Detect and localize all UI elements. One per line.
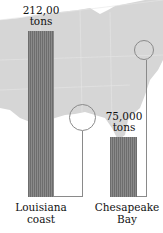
value-label-chesapeake: 75,000 tons — [98, 111, 150, 133]
value-label-chesapeake-unit: tons — [98, 122, 150, 133]
bar-louisiana-coast — [28, 31, 54, 197]
baseline-right — [137, 196, 146, 197]
value-label-louisiana: 212,00 tons — [16, 5, 66, 27]
category-louisiana-line1: Louisiana — [10, 201, 72, 213]
category-chesapeake-line1: Chesapeake — [92, 201, 162, 213]
category-louisiana-line2: coast — [10, 213, 72, 225]
category-label-chesapeake: Chesapeake Bay — [92, 201, 162, 225]
chart-root: 212,00 tons 75,000 tons Louisiana coast … — [0, 0, 163, 233]
category-chesapeake-line2: Bay — [92, 213, 162, 225]
chesapeake-locator-circle — [134, 40, 154, 60]
louisiana-locator-circle — [69, 104, 96, 131]
louisiana-leader-line — [82, 131, 83, 197]
bar-chesapeake-bay — [110, 137, 137, 197]
category-label-louisiana: Louisiana coast — [10, 201, 72, 225]
baseline-left — [54, 196, 82, 197]
value-label-louisiana-unit: tons — [16, 16, 66, 27]
